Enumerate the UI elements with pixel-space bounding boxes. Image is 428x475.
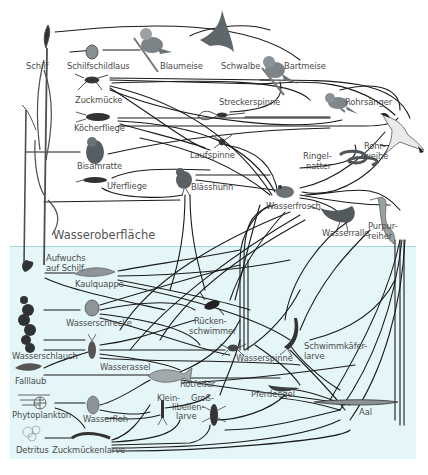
label-aufwuchs-2: auf Schilf xyxy=(46,264,84,273)
label-streckerspinne: Streckerspinne xyxy=(219,98,280,107)
label-wasserfloh: Wasserfloh xyxy=(83,415,128,424)
label-aal: Aal xyxy=(359,408,372,417)
bladderwort-icon xyxy=(18,296,36,353)
label-wasserschrecke: Wasserschrecke xyxy=(66,319,132,328)
midge-larva-icon xyxy=(72,434,110,439)
label-detritus: Detritus xyxy=(16,446,49,455)
label-purpurreiher-2: reiher xyxy=(368,232,392,241)
label-rohrweihe-1: Rohr- xyxy=(364,142,385,151)
caddisfly-icon xyxy=(76,112,110,122)
label-libellenlarve-3: larve xyxy=(176,412,197,421)
backswimmer-icon xyxy=(200,292,224,315)
scale-insect-icon xyxy=(86,45,98,59)
label-zuckmueckenlarve: Zuckmückenlarve xyxy=(52,446,125,455)
label-wasserspinne: Wasserspinne xyxy=(236,354,293,363)
food-web-diagram: Wasseroberfläche xyxy=(0,0,428,475)
label-schwalbe: Schwalbe xyxy=(221,62,260,71)
label-uferfliege: Uferfliege xyxy=(107,182,147,191)
label-ringelnatter-2: natter xyxy=(306,162,331,171)
label-aufwuchs-1: Aufwuchs xyxy=(46,254,85,263)
damselfly-larva-icon xyxy=(158,400,167,425)
dragonfly-larva-icon xyxy=(202,404,226,426)
label-purpurreiher-1: Purpur- xyxy=(368,222,398,231)
water-flea-icon xyxy=(87,396,99,414)
swallow-bird-icon xyxy=(200,10,234,52)
label-rohrsaenger: Rohrsänger xyxy=(345,98,392,107)
label-phytoplankton: Phytoplankton xyxy=(12,411,71,420)
muskrat-icon xyxy=(86,137,104,164)
label-zuckmuecke: Zuckmücke xyxy=(75,96,122,105)
wolf-spider-icon xyxy=(212,135,232,150)
water-bug-icon xyxy=(85,300,99,316)
frog-icon xyxy=(276,185,294,198)
shore-fly-icon xyxy=(76,177,107,183)
label-falllaub: Falllaub xyxy=(15,377,46,386)
label-blaesshuhn: Blässhuhn xyxy=(191,183,233,192)
stretch-spider-icon xyxy=(198,111,245,119)
marsh-harrier-bird-icon xyxy=(380,113,424,154)
eel-icon xyxy=(314,400,398,405)
label-bartmeise: Bartmeise xyxy=(284,62,326,71)
label-wasserschlauch: Wasserschlauch xyxy=(12,352,78,361)
label-wasserassel: Wasserassel xyxy=(100,363,150,372)
label-kaulquappe: Kaulquappe xyxy=(75,280,124,289)
label-schilf: Schilf xyxy=(26,62,48,71)
label-pferdeegel: Pferdeegel xyxy=(251,390,295,399)
label-rotfeder: Rotfeder xyxy=(180,380,215,389)
label-rueckenschwimmer-2: schwimmer xyxy=(189,327,236,336)
water-louse-icon xyxy=(88,334,96,359)
label-laufspinne: Laufspinne xyxy=(190,151,235,160)
phytoplankton-icon xyxy=(18,395,50,409)
coot-bird-icon xyxy=(176,168,192,196)
label-koecherfliege: Köcherfliege xyxy=(74,124,125,133)
label-rohrweihe-2: weihe xyxy=(364,152,388,161)
label-wasserralle: Wasserralle xyxy=(322,229,369,238)
midge-icon xyxy=(75,74,108,90)
diving-beetle-larva-icon xyxy=(280,318,298,356)
label-ringelnatter-1: Ringel- xyxy=(303,152,332,161)
label-wasserfrosch: Wasserfrosch xyxy=(266,202,321,211)
label-blaumeise: Blaumeise xyxy=(160,62,203,71)
fallen-leaves-icon xyxy=(15,363,42,371)
label-schilfschildlaus: Schilfschildlaus xyxy=(67,62,130,71)
label-rueckenschwimmer-1: Rücken- xyxy=(194,317,227,326)
detritus-icon xyxy=(23,426,40,441)
label-bisamratte: Bisamratte xyxy=(77,162,122,171)
label-schwimmkaeferlarve-1: Schwimmkäfer- xyxy=(304,342,367,351)
label-schwimmkaeferlarve-2: larve xyxy=(304,352,325,361)
